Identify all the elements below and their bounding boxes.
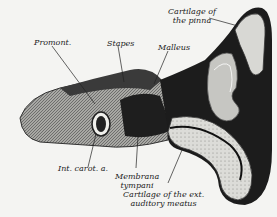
label-cartilage-pinna-line2: the pinna [168,16,216,25]
label-promontory: Promont. [34,38,71,47]
label-cartilage-pinna: Cartilage of the pinna [168,7,216,25]
label-cartilage-meatus: Cartilage of the ext. auditory meatus [123,190,204,208]
label-cartilage-pinna-line1: Cartilage of [168,7,216,16]
label-internal-carotid-artery: Int. carot. a. [58,164,108,173]
label-stapes: Stapes [107,39,134,48]
concha-folds [207,53,239,121]
label-membrana-tympani: Membrana tympani [115,172,159,190]
label-meatus-line1: Cartilage of the ext. [123,190,204,199]
label-membrana-line2: tympani [115,181,159,190]
label-meatus-line2: auditory meatus [123,199,204,208]
label-malleus: Malleus [158,43,190,52]
label-membrana-line1: Membrana [115,172,159,181]
